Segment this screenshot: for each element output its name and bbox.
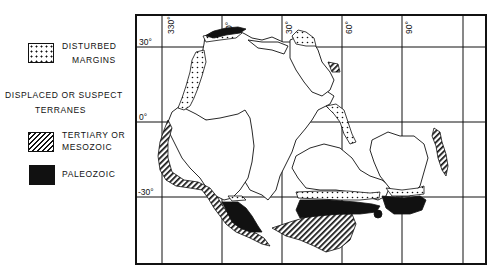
lon-label-90: 90° [404,21,414,34]
lon-label-330: 330° [166,16,176,34]
lat-label-30: 30° [139,37,152,47]
lat-label-minus30: -30° [138,187,154,197]
lon-label-30: 30° [284,21,294,34]
lon-label-60: 60° [344,21,354,34]
lat-label-0: 0° [139,112,147,122]
paleozoic-island [374,210,382,218]
lon-label-0: 0° [224,22,234,30]
pangaea-map: 330° 0° 30° 60° 90° 30° 0° -30° [0,0,487,277]
